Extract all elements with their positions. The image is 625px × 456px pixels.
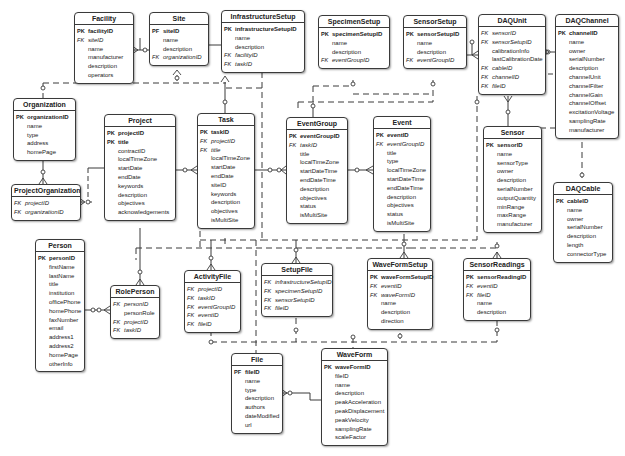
entity-projectorganization[interactable]: ProjectOrganization FKprojectIDFKorganiz…: [11, 184, 81, 221]
entity-field: description: [224, 43, 302, 52]
entity-field: FKprojectID: [113, 318, 157, 327]
entity-setupfile[interactable]: SetupFile FKinfrastructureSetupIDFKspeci…: [261, 263, 333, 317]
entity-activityfile[interactable]: ActivityFile FKprojectIDFKtaskIDFKeventG…: [184, 270, 241, 333]
entity-event[interactable]: Event PKeventIDFKeventGroupIDtitletypelo…: [373, 116, 431, 232]
field-name: manufacturer: [569, 126, 616, 135]
field-name: title: [49, 280, 82, 289]
entity-roleperson[interactable]: RolePerson FKpersonIDpersonRoleFKproject…: [110, 285, 160, 339]
entity-field: PKcableID: [556, 197, 610, 206]
entity-title: Event: [374, 117, 430, 129]
er-diagram: Facility PKfacilityIDFKsiteIDnamemanufac…: [0, 0, 625, 456]
entity-field: channelUnit: [558, 73, 616, 82]
key-marker: [107, 155, 118, 164]
entity-field: excitationVoltage: [558, 108, 616, 117]
entity-site[interactable]: Site PFsiteIDnamedescriptionFKorganizati…: [149, 12, 209, 66]
key-marker: PK: [38, 254, 49, 263]
entity-person[interactable]: Person PKpersonIDfirstNamelastNametitlei…: [35, 239, 85, 372]
field-name: length: [567, 241, 610, 250]
entity-field: faxNumber: [38, 316, 82, 325]
entity-file[interactable]: File PFfileIDnametypedescriptionauthorsd…: [231, 353, 283, 434]
key-marker: [38, 351, 49, 360]
field-name: sensorType: [497, 159, 539, 168]
key-marker: PF: [152, 27, 163, 36]
entity-field: minRange: [486, 203, 539, 212]
field-name: taskID: [198, 294, 238, 303]
field-name: projectID: [198, 285, 238, 294]
entity-title: Person: [36, 240, 84, 252]
field-name: description: [118, 191, 173, 200]
key-marker: FK: [224, 60, 235, 69]
field-name: waveFormID: [335, 363, 385, 372]
entity-field: description: [321, 48, 387, 57]
field-name: channelID: [569, 29, 616, 38]
entity-daqcable[interactable]: DAQCable PKcableIDnameownerserialNumberd…: [553, 182, 613, 263]
key-marker: FK: [321, 56, 332, 65]
key-marker: [289, 194, 300, 203]
entity-field: isMultiSite: [376, 219, 428, 228]
entity-fields: PKsensorIDnamesensorTypeownerdescription…: [484, 139, 541, 232]
entity-eventgroup[interactable]: EventGroup PKeventGroupIDFKtaskIDtitlelo…: [286, 117, 348, 224]
field-name: lastName: [49, 272, 82, 281]
entity-title: DAQCable: [554, 183, 612, 195]
field-name: type: [27, 131, 73, 140]
field-name: taskID: [211, 128, 252, 137]
field-name: localTimeZone: [118, 155, 173, 164]
entity-field: name: [77, 45, 131, 54]
key-marker: [324, 433, 335, 442]
key-marker: [324, 381, 335, 390]
key-marker: FK: [264, 296, 275, 305]
field-name: name: [335, 381, 385, 390]
entity-field: endDateTime: [289, 176, 345, 185]
field-name: sensorReadingID: [477, 273, 528, 282]
entity-daqunit[interactable]: DAQUnit FKsensorIDFKsensorSetupIDcalibra…: [478, 14, 546, 95]
entity-sensorsetup[interactable]: SensorSetup PKsensorSetupIDnamedescripti…: [403, 15, 467, 69]
field-name: channelGain: [569, 91, 616, 100]
entity-task[interactable]: Task PKtaskIDFKprojectIDFKtitlelocalTime…: [197, 113, 255, 229]
key-marker: [406, 39, 417, 48]
key-marker: [481, 47, 492, 56]
key-marker: [289, 158, 300, 167]
entity-title: EventGroup: [287, 118, 347, 130]
entity-specimensetup[interactable]: SpecimenSetup PKspecimenSetupIDnamedescr…: [318, 15, 390, 69]
field-name: endDate: [118, 173, 173, 182]
field-name: isMultiSite: [211, 216, 252, 225]
field-name: lastCalibrationDate: [492, 55, 543, 64]
key-marker: FK: [466, 291, 477, 300]
key-marker: PK: [486, 141, 497, 150]
key-marker: [289, 211, 300, 220]
entity-waveform[interactable]: WaveForm PKwaveFormIDfileIDnamedescripti…: [321, 348, 388, 446]
entity-infrastructuresetup[interactable]: InfrastructureSetup PKinfrastructureSetu…: [221, 10, 305, 73]
entity-fields: FKprojectIDFKorganizationID: [12, 197, 80, 220]
key-marker: PK: [370, 273, 381, 282]
field-name: name: [567, 206, 610, 215]
field-name: taskID: [124, 326, 157, 335]
entity-sensor[interactable]: Sensor PKsensorIDnamesensorTypeownerdesc…: [483, 126, 542, 233]
field-name: title: [118, 138, 173, 147]
entity-fields: PKsensorReadingIDFKeventIDFKfileIDnamede…: [464, 271, 530, 320]
field-name: eventGroupID: [387, 140, 428, 149]
entity-field: description: [234, 394, 280, 403]
entity-field: officePhone: [38, 298, 82, 307]
field-name: endDateTime: [387, 184, 428, 193]
field-name: description: [163, 45, 206, 54]
entity-organization[interactable]: Organization PKorganizationIDnametypeadd…: [13, 98, 76, 161]
key-marker: FK: [481, 82, 492, 91]
entity-daqchannel[interactable]: DAQChannel PKchannelIDnameownerserialNum…: [555, 14, 619, 139]
entity-waveformsetup[interactable]: WaveFormSetup PKwaveFormSetupIDFKeventID…: [367, 258, 433, 330]
field-name: objectives: [211, 207, 252, 216]
field-name: endDateTime: [300, 176, 345, 185]
entity-field: samplingRate: [558, 117, 616, 126]
entity-field: PKwaveFormID: [324, 363, 385, 372]
field-name: description: [381, 308, 430, 317]
entity-facility[interactable]: Facility PKfacilityIDFKsiteIDnamemanufac…: [74, 12, 134, 84]
entity-field: manufacturer: [558, 126, 616, 135]
key-marker: [558, 47, 569, 56]
entity-sensorreadings[interactable]: SensorReadings PKsensorReadingIDFKeventI…: [463, 258, 531, 321]
entity-field: FKinfrastructureSetupID: [264, 278, 330, 287]
field-name: status: [300, 202, 345, 211]
entity-fields: PKorganizationIDnametypeaddresshomePage: [14, 111, 75, 160]
entity-field: name: [224, 34, 302, 43]
key-marker: [38, 280, 49, 289]
entity-project[interactable]: Project PKprojectIDPKtitlecontractIDloca…: [104, 114, 176, 221]
field-name: name: [497, 150, 539, 159]
